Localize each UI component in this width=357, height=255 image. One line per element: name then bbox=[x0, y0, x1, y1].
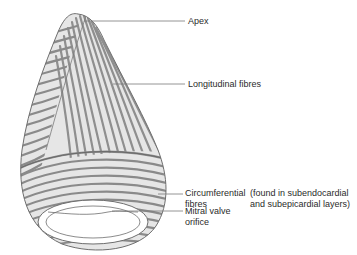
label-mitral-line2: orifice bbox=[185, 217, 231, 228]
mitral-valve-orifice bbox=[38, 200, 148, 244]
label-apex: Apex bbox=[188, 16, 209, 27]
label-mitral-line1: Mitral valve bbox=[185, 206, 231, 217]
label-layer-note: (found in subendocardial and subepicardi… bbox=[250, 188, 350, 210]
label-note-line2: and subepicardial layers) bbox=[250, 199, 350, 210]
label-longitudinal-fibres: Longitudinal fibres bbox=[188, 79, 261, 90]
label-note-line1: (found in subendocardial bbox=[250, 188, 350, 199]
label-circumferential-line1: Circumferential bbox=[185, 188, 246, 199]
left-ventricle-diagram bbox=[0, 0, 357, 255]
label-mitral-valve-orifice: Mitral valve orifice bbox=[185, 206, 231, 228]
